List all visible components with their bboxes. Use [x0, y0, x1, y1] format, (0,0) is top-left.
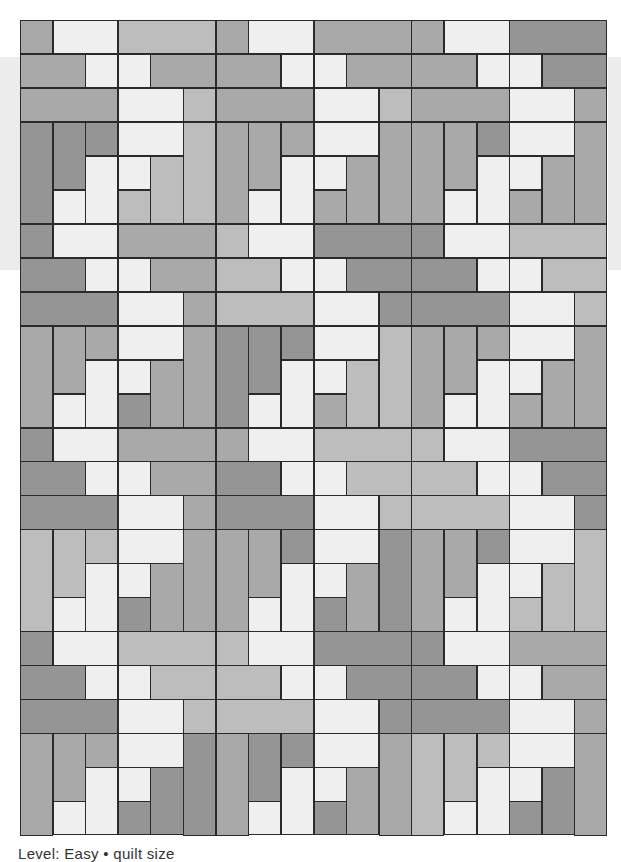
- quilt-piece: [542, 360, 575, 428]
- quilt-piece: [20, 699, 118, 733]
- quilt-piece: [574, 495, 607, 529]
- quilt-piece: [314, 767, 347, 801]
- quilt-piece: [183, 122, 216, 224]
- quilt-piece: [150, 54, 216, 88]
- quilt-piece: [20, 122, 53, 224]
- quilt-piece: [509, 699, 575, 733]
- quilt-piece: [509, 394, 542, 428]
- quilt-piece: [118, 767, 151, 801]
- quilt-piece: [509, 156, 542, 190]
- quilt-piece: [314, 428, 412, 462]
- quilt-piece: [314, 495, 380, 529]
- quilt-piece: [411, 665, 477, 699]
- quilt-piece: [281, 733, 314, 767]
- pattern-caption: Level: Easy • quilt size: [18, 845, 175, 862]
- quilt-piece: [314, 20, 412, 54]
- quilt-piece: [314, 631, 412, 665]
- quilt-piece: [314, 563, 347, 597]
- page-edge-shadow-right: [608, 57, 621, 270]
- quilt-piece: [411, 326, 444, 428]
- quilt-piece: [53, 224, 119, 258]
- quilt-piece: [444, 224, 510, 258]
- quilt-piece: [509, 190, 542, 224]
- quilt-piece: [314, 801, 347, 835]
- quilt-piece: [20, 326, 53, 428]
- quilt-piece: [85, 461, 118, 495]
- quilt-piece: [477, 563, 510, 631]
- quilt-piece: [85, 767, 118, 835]
- quilt-piece: [20, 461, 86, 495]
- quilt-piece: [248, 394, 281, 428]
- quilt-piece: [444, 326, 477, 394]
- quilt-piece: [411, 699, 509, 733]
- quilt-piece: [574, 699, 607, 733]
- quilt-piece: [509, 563, 542, 597]
- quilt-piece: [509, 461, 542, 495]
- quilt-piece: [314, 326, 380, 360]
- quilt-piece: [411, 20, 444, 54]
- quilt-piece: [248, 733, 281, 801]
- quilt-piece: [20, 495, 118, 529]
- quilt-piece: [85, 665, 118, 699]
- quilt-piece: [118, 461, 151, 495]
- quilt-piece: [346, 767, 379, 835]
- quilt-piece: [411, 733, 444, 835]
- quilt-piece: [281, 258, 314, 292]
- quilt-piece: [85, 360, 118, 428]
- quilt-piece: [509, 597, 542, 631]
- quilt-piece: [248, 122, 281, 190]
- quilt-piece: [509, 326, 575, 360]
- quilt-piece: [216, 122, 249, 224]
- quilt-piece: [574, 529, 607, 631]
- quilt-piece: [53, 801, 86, 835]
- quilt-piece: [20, 529, 53, 631]
- quilt-piece: [346, 461, 412, 495]
- quilt-piece: [118, 495, 184, 529]
- quilt-piece: [509, 360, 542, 394]
- quilt-piece: [20, 20, 53, 54]
- quilt-piece: [183, 733, 216, 835]
- quilt-piece: [477, 54, 510, 88]
- quilt-piece: [183, 699, 216, 733]
- quilt-piece: [281, 156, 314, 224]
- quilt-piece: [346, 665, 412, 699]
- quilt-piece: [411, 258, 477, 292]
- quilt-piece: [248, 428, 314, 462]
- quilt-piece: [379, 733, 412, 835]
- quilt-piece: [20, 292, 118, 326]
- quilt-piece: [216, 224, 249, 258]
- quilt-piece: [150, 563, 183, 631]
- quilt-piece: [379, 326, 412, 428]
- quilt-piece: [85, 529, 118, 563]
- quilt-piece: [444, 733, 477, 801]
- quilt-piece: [85, 733, 118, 767]
- quilt-piece: [477, 326, 510, 360]
- quilt-piece: [85, 156, 118, 224]
- quilt-piece: [314, 122, 380, 156]
- quilt-piece: [509, 631, 607, 665]
- quilt-piece: [509, 665, 542, 699]
- quilt-piece: [314, 292, 380, 326]
- quilt-piece: [574, 88, 607, 122]
- quilt-piece: [281, 54, 314, 88]
- quilt-piece: [183, 495, 216, 529]
- quilt-piece: [216, 495, 314, 529]
- quilt-piece: [509, 258, 542, 292]
- quilt-piece: [20, 88, 118, 122]
- quilt-piece: [509, 495, 575, 529]
- quilt-piece: [281, 665, 314, 699]
- quilt-piece: [281, 563, 314, 631]
- quilt-piece: [477, 122, 510, 156]
- quilt-piece: [118, 563, 151, 597]
- quilt-piece: [574, 292, 607, 326]
- quilt-piece: [477, 461, 510, 495]
- quilt-piece: [411, 88, 509, 122]
- quilt-piece: [574, 122, 607, 224]
- quilt-piece: [411, 292, 509, 326]
- quilt-piece: [118, 394, 151, 428]
- quilt-piece: [118, 428, 216, 462]
- quilt-piece: [281, 767, 314, 835]
- quilt-piece: [477, 529, 510, 563]
- quilt-piece: [85, 258, 118, 292]
- quilt-piece: [379, 529, 412, 631]
